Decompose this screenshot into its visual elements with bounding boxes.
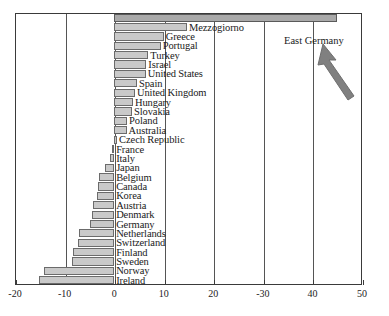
- bar: [114, 42, 161, 50]
- bar: [110, 154, 114, 162]
- bar: [114, 126, 126, 134]
- bars-layer: [15, 13, 362, 285]
- bar: [114, 14, 337, 22]
- bar: [92, 211, 114, 219]
- bar: [114, 136, 117, 144]
- bar: [114, 70, 146, 78]
- x-axis-tick-label: 40: [307, 289, 317, 299]
- x-axis-tickmark: [363, 280, 364, 285]
- x-axis-tick-label: 10: [159, 289, 169, 299]
- bar: [39, 276, 114, 284]
- bar: [79, 229, 114, 237]
- bar: [114, 60, 146, 68]
- category-label: Ireland: [116, 276, 145, 287]
- bar: [105, 164, 114, 172]
- bar: [97, 192, 114, 200]
- bar: [90, 220, 114, 228]
- x-axis-tick-label: 0: [112, 289, 117, 299]
- bar: [78, 239, 114, 247]
- bar: [114, 23, 187, 31]
- bar: [114, 117, 127, 125]
- x-axis-tick-label: -30: [256, 289, 269, 299]
- bar: [114, 79, 137, 87]
- bar: [73, 248, 115, 256]
- bar-chart: MezzogiornoGreecePortugalTurkeyIsraelUni…: [0, 0, 389, 316]
- x-axis-tick-label: 20: [208, 289, 218, 299]
- bar: [44, 267, 114, 275]
- bar: [112, 145, 114, 153]
- bar: [93, 201, 114, 209]
- bar: [114, 107, 132, 115]
- category-label: Mezzogiorno: [189, 23, 244, 34]
- bar: [72, 257, 115, 265]
- x-axis-tick-label: -20: [8, 289, 21, 299]
- bar: [114, 32, 164, 40]
- bar: [99, 173, 114, 181]
- x-axis-tick-label: -10: [58, 289, 71, 299]
- bar: [114, 89, 135, 97]
- annotation-label-east-germany: East Germany: [284, 36, 344, 47]
- bar: [98, 182, 114, 190]
- x-axis-tick-label: 50: [357, 289, 367, 299]
- bar: [114, 98, 133, 106]
- bar: [114, 51, 148, 59]
